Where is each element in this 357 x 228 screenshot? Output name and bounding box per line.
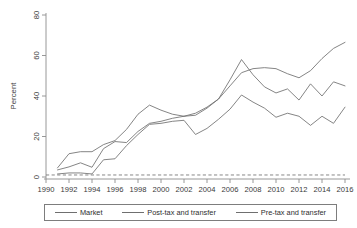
x-tick-label: 2014: [314, 185, 331, 194]
legend-line-swatch: [122, 212, 144, 213]
x-tick-label: 1992: [61, 185, 78, 194]
chart-legend: MarketPost-tax and transferPre-tax and t…: [44, 204, 337, 221]
legend-line-swatch: [55, 212, 77, 213]
data-series-group: [58, 42, 346, 174]
legend-item-label: Pre-tax and transfer: [261, 208, 326, 217]
y-tick-marks: [42, 15, 46, 177]
legend-item-market[interactable]: Market: [55, 208, 103, 217]
y-tick-label: 20: [32, 132, 41, 140]
x-tick-label: 2016: [337, 185, 354, 194]
y-tick-label: 80: [32, 11, 41, 19]
x-tick-label: 2004: [199, 185, 216, 194]
x-tick-label: 1998: [130, 185, 147, 194]
x-tick-marks: [46, 179, 345, 183]
x-tick-labels: 1990199219941996199820002002200420062008…: [38, 185, 354, 194]
y-axis-title: Percent: [9, 82, 18, 110]
y-tick-label: 40: [32, 92, 41, 100]
y-tick-label: 0: [32, 175, 41, 179]
x-tick-label: 2006: [222, 185, 239, 194]
x-tick-label: 1996: [107, 185, 124, 194]
series-line-market: [58, 42, 346, 170]
x-tick-label: 2008: [245, 185, 262, 194]
x-tick-label: 2010: [268, 185, 285, 194]
legend-item-label: Post-tax and transfer: [147, 208, 216, 217]
legend-item-pre-tax-and-transfer[interactable]: Pre-tax and transfer: [236, 208, 326, 217]
x-tick-label: 2012: [291, 185, 308, 194]
y-tick-labels: 020406080: [32, 11, 41, 179]
y-tick-label: 60: [32, 51, 41, 59]
legend-line-swatch: [236, 212, 258, 213]
chart-figure: 020406080 199019921994199619982000200220…: [0, 0, 357, 228]
x-tick-label: 2000: [153, 185, 170, 194]
legend-item-post-tax-and-transfer[interactable]: Post-tax and transfer: [122, 208, 216, 217]
x-tick-label: 1994: [84, 185, 101, 194]
line-chart-plot: 020406080 199019921994199619982000200220…: [0, 0, 357, 228]
x-tick-label: 2002: [176, 185, 193, 194]
legend-item-label: Market: [80, 208, 103, 217]
series-line-post-tax-and-transfer: [58, 95, 346, 174]
x-tick-label: 1990: [38, 185, 55, 194]
